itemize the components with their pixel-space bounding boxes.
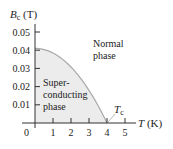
x-tick-label: 3 — [87, 127, 92, 138]
x-axis-unit: (K) — [144, 117, 162, 130]
critical-field-chart: 0.010.020.030.040.05 12345 Bc (T) T (K) … — [0, 0, 173, 149]
origin-label: 0 — [24, 127, 29, 138]
y-tick-label: 0.04 — [13, 45, 31, 56]
x-tick-label: 2 — [69, 127, 74, 138]
y-axis-unit: (T) — [20, 8, 37, 21]
chart-svg: 0.010.020.030.040.05 12345 Bc (T) T (K) … — [0, 0, 173, 149]
y-tick-label: 0.05 — [13, 27, 31, 38]
tc-label: Tc — [114, 103, 124, 117]
x-axis-label: T (K) — [138, 117, 162, 130]
x-tick-label: 4 — [105, 127, 110, 138]
y-tick-label: 0.02 — [13, 81, 31, 92]
x-tick-label: 1 — [51, 127, 56, 138]
y-axis-label: Bc (T) — [10, 8, 37, 22]
y-tick-label: 0.01 — [13, 99, 31, 110]
normal-phase-label: Normal phase — [93, 38, 126, 61]
y-tick-label: 0.03 — [13, 63, 31, 74]
tc-leader-line — [108, 114, 115, 122]
x-tick-label: 5 — [123, 127, 128, 138]
